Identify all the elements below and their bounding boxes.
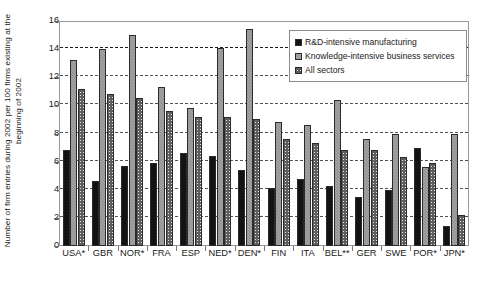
legend-item[interactable]: R&D-intensive manufacturing xyxy=(295,35,461,49)
bar xyxy=(129,35,136,246)
bar xyxy=(121,166,128,246)
bar xyxy=(297,179,304,247)
bar xyxy=(341,150,348,246)
x-tick-label-GBR: GBR xyxy=(88,249,117,258)
bar xyxy=(458,215,465,246)
bar xyxy=(443,226,450,246)
legend-item[interactable]: All sectors xyxy=(295,63,461,77)
bar xyxy=(355,197,362,246)
bar xyxy=(304,125,311,246)
bar xyxy=(136,98,143,246)
x-tick-label-ITA: ITA xyxy=(293,249,322,258)
x-tick-label-GER: GER xyxy=(352,249,381,258)
bar xyxy=(400,157,407,246)
bar xyxy=(253,119,260,246)
bar xyxy=(312,143,319,246)
bar-group xyxy=(59,21,88,246)
bar xyxy=(180,153,187,246)
bar xyxy=(92,181,99,246)
legend-swatch-icon xyxy=(295,39,302,46)
bar xyxy=(187,108,194,246)
legend-item-label: Knowledge-intensive business services xyxy=(305,52,455,61)
bar-group xyxy=(147,21,176,246)
bar xyxy=(246,29,253,246)
bar xyxy=(63,150,70,246)
bar xyxy=(392,134,399,247)
bar-group xyxy=(205,21,234,246)
bar-group xyxy=(176,21,205,246)
x-tick-label-USA: USA* xyxy=(59,249,88,258)
y-axis-title-line-1: Number of firm entries during 2002 per 1… xyxy=(4,14,12,247)
x-tick-label-ESP: ESP xyxy=(176,249,205,258)
x-tick-label-SWE: SWE xyxy=(381,249,410,258)
legend-swatch-icon xyxy=(295,53,302,60)
x-tick-label-FIN: FIN xyxy=(264,249,293,258)
bar xyxy=(414,148,421,246)
bar xyxy=(238,170,245,246)
x-tick-label-NOR: NOR* xyxy=(118,249,147,258)
bar xyxy=(451,134,458,247)
bar-group xyxy=(235,21,264,246)
x-tick-label-FRA: FRA xyxy=(147,249,176,258)
x-tick-label-DEN: DEN* xyxy=(235,249,264,258)
y-axis-title-line-2: beginning of 2002 xyxy=(15,78,23,144)
bar xyxy=(99,49,106,246)
x-tick-label-NED: NED* xyxy=(205,249,234,258)
bar xyxy=(275,122,282,246)
x-axis-labels: USA*GBRNOR*FRAESPNED*DEN*FINITABEL**GERS… xyxy=(59,249,469,271)
bar xyxy=(158,87,165,246)
bar xyxy=(326,186,333,246)
legend-swatch-icon xyxy=(295,67,302,74)
bar-group xyxy=(88,21,117,246)
bar xyxy=(107,94,114,246)
bar xyxy=(224,117,231,246)
bar xyxy=(422,167,429,246)
x-tick-label-BEL: BEL** xyxy=(323,249,352,258)
bar xyxy=(78,89,85,247)
x-tick-label-POR: POR* xyxy=(410,249,439,258)
bar xyxy=(70,60,77,246)
bar-chart: Number of firm entries during 2002 per 1… xyxy=(0,0,491,281)
bar xyxy=(334,100,341,246)
bar-group xyxy=(118,21,147,246)
bar xyxy=(268,188,275,246)
bar xyxy=(150,163,157,246)
bar xyxy=(283,139,290,246)
legend-item[interactable]: Knowledge-intensive business services xyxy=(295,49,461,63)
legend-item-label: All sectors xyxy=(305,66,345,75)
bar xyxy=(166,111,173,246)
bar xyxy=(363,139,370,246)
bar xyxy=(209,156,216,246)
y-axis-title: Number of firm entries during 2002 per 1… xyxy=(0,0,34,266)
legend-item-label: R&D-intensive manufacturing xyxy=(305,38,417,47)
bar xyxy=(429,163,436,246)
bar xyxy=(385,190,392,246)
bar xyxy=(195,117,202,246)
bar xyxy=(217,48,224,246)
bar xyxy=(371,150,378,246)
x-tick-label-JPN: JPN* xyxy=(440,249,469,258)
chart-legend: R&D-intensive manufacturingKnowledge-int… xyxy=(289,30,467,82)
y-axis: 0246810121416 xyxy=(30,0,59,281)
